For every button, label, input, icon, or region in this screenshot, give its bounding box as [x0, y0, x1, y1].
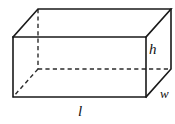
length-label: l [78, 104, 82, 119]
width-label: w [160, 87, 169, 100]
top-face-fill [13, 9, 171, 37]
prism-drawing [0, 0, 175, 124]
front-face-fill [13, 37, 146, 97]
prism-figure: h w l [0, 0, 175, 124]
height-label: h [149, 42, 157, 57]
